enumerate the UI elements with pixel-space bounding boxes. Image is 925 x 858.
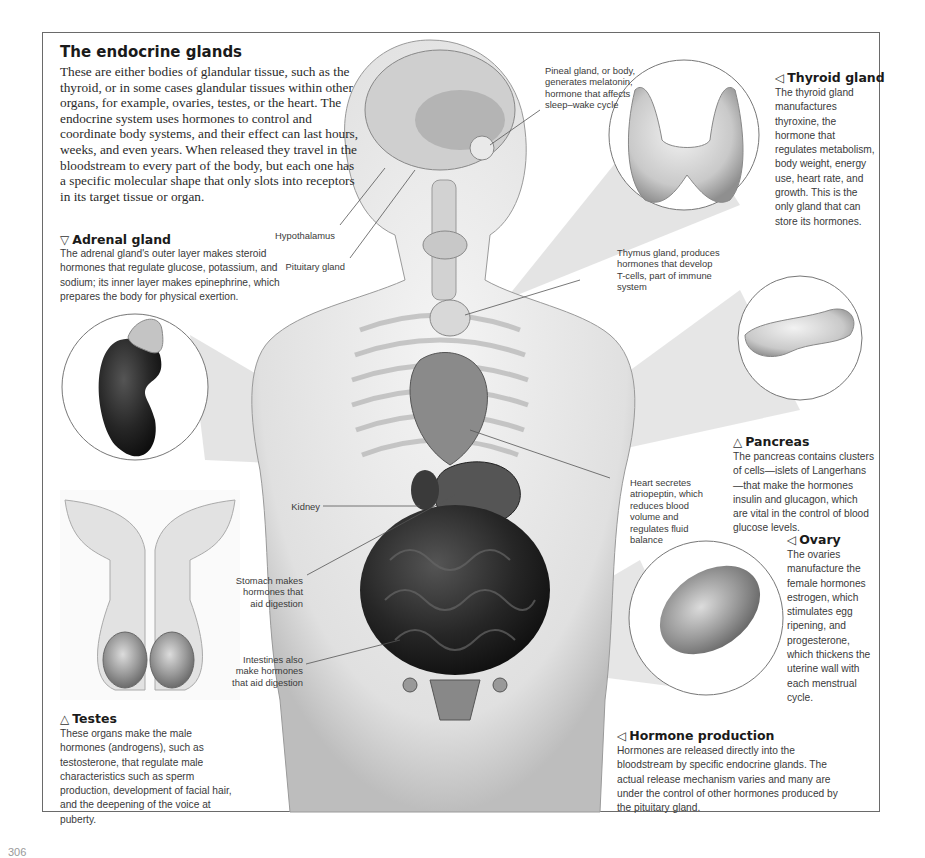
ovary-heading: ◁Ovary <box>787 532 841 547</box>
ovary-text: The ovaries manufacture the female hormo… <box>787 548 875 705</box>
thymus <box>430 300 470 336</box>
pancreas-heading: △Pancreas <box>733 434 809 449</box>
thyroid-small <box>423 231 467 259</box>
hormone-production-heading: ◁Hormone production <box>617 728 775 743</box>
testes-heading: △Testes <box>60 711 117 726</box>
hypothalamus-label: Hypothalamus <box>255 230 335 241</box>
adrenal-title: Adrenal gland <box>72 232 171 247</box>
stomach-label: Stomach makes hormones that aid digestio… <box>230 575 303 609</box>
pancreas-title: Pancreas <box>745 434 809 449</box>
adrenal-heading: ▽Adrenal gland <box>60 232 171 247</box>
page-number: 306 <box>8 846 26 858</box>
testes-image <box>60 490 240 700</box>
thyroid-heading: ◁Thyroid gland <box>775 70 885 85</box>
thymus-label: Thymus gland, produces hormones that dev… <box>617 247 722 293</box>
thyroid-text: The thyroid gland manufactures thyroxine… <box>775 86 875 229</box>
intro-title: The endocrine glands <box>60 43 242 61</box>
left-triangle-icon: ◁ <box>787 533 796 547</box>
intro-text: These are either bodies of glandular tis… <box>60 64 360 204</box>
hormone-production-text: Hormones are released directly into the … <box>617 744 842 815</box>
heart-label: Heart secretes atriopeptin, which reduce… <box>630 477 705 545</box>
pancreas-text: The pancreas contains clusters of cells—… <box>733 450 875 536</box>
adrenal-text: The adrenal gland's outer layer makes st… <box>60 247 305 304</box>
down-triangle-icon: ▽ <box>60 233 69 247</box>
pineal-label: Pineal gland, or body, generates melaton… <box>545 65 650 111</box>
left-triangle-icon: ◁ <box>617 729 626 743</box>
pineal-gland <box>470 136 494 160</box>
kidney-small <box>411 470 439 510</box>
ovary-title: Ovary <box>799 532 841 547</box>
left-triangle-icon: ◁ <box>775 71 784 85</box>
thyroid-title: Thyroid gland <box>787 70 884 85</box>
intestines-label: Intestines also make hormones that aid d… <box>230 654 303 688</box>
up-triangle-icon: △ <box>60 712 69 726</box>
up-triangle-icon: △ <box>733 435 742 449</box>
hormone-production-title: Hormone production <box>629 728 774 743</box>
testes-title: Testes <box>72 711 117 726</box>
pituitary-label: Pituitary gland <box>255 261 345 272</box>
testes-text: These organs make the male hormones (and… <box>60 727 240 827</box>
kidney-label: Kidney <box>250 501 320 512</box>
